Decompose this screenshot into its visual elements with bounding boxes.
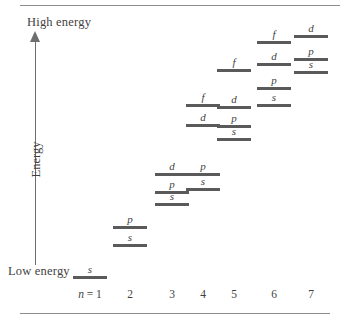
orbital-level-label: s <box>186 176 220 187</box>
orbital-level-bar <box>257 104 291 107</box>
orbital-level-label: f <box>257 29 291 40</box>
orbital-level-bar <box>113 244 147 247</box>
n-axis-label-7: 7 <box>288 288 334 300</box>
orbital-level-bar <box>257 41 291 44</box>
orbital-level-bar <box>186 188 220 191</box>
low-energy-label: Low energy <box>8 264 70 279</box>
orbital-level-bar <box>217 138 251 141</box>
energy-axis-title: Energy <box>29 120 44 200</box>
orbital-level-bar <box>73 276 107 279</box>
orbital-level-label: p <box>113 214 147 225</box>
orbital-level-label: s <box>257 92 291 103</box>
high-energy-label: High energy <box>27 15 91 30</box>
orbital-level-bar <box>155 173 189 176</box>
orbital-level-label: d <box>294 23 328 34</box>
orbital-level-label: s <box>217 126 251 137</box>
orbital-level-label: s <box>73 264 107 275</box>
orbital-level-label: s <box>113 232 147 243</box>
orbital-level-label: s <box>294 59 328 70</box>
n-axis-label-2: 2 <box>107 288 153 300</box>
orbital-level-label: d <box>155 161 189 172</box>
orbital-level-label: p <box>186 161 220 172</box>
orbital-level-bar <box>294 71 328 74</box>
orbital-level-bar <box>217 69 251 72</box>
orbital-level-label: s <box>155 191 189 202</box>
orbital-level-bar <box>113 226 147 229</box>
orbital-level-label: p <box>217 113 251 124</box>
orbital-level-label: p <box>155 179 189 190</box>
orbital-level-label: p <box>294 46 328 57</box>
orbital-level-label: f <box>217 57 251 68</box>
top-divider-rule <box>20 5 340 6</box>
orbital-level-bar <box>217 106 251 109</box>
orbital-level-label: d <box>257 51 291 62</box>
orbital-level-bar <box>186 124 220 127</box>
orbital-level-label: f <box>186 92 220 103</box>
orbital-level-label: d <box>217 94 251 105</box>
orbital-level-bar <box>257 87 291 90</box>
orbital-level-label: d <box>186 112 220 123</box>
orbital-level-label: p <box>257 75 291 86</box>
orbital-level-bar <box>186 104 220 107</box>
orbital-level-bar <box>257 63 291 66</box>
orbital-level-bar <box>155 203 189 206</box>
bottom-divider-rule <box>20 313 330 314</box>
energy-level-diagram: High energy Low energy Energy spsdpsfdps… <box>0 0 340 323</box>
orbital-level-bar <box>294 35 328 38</box>
